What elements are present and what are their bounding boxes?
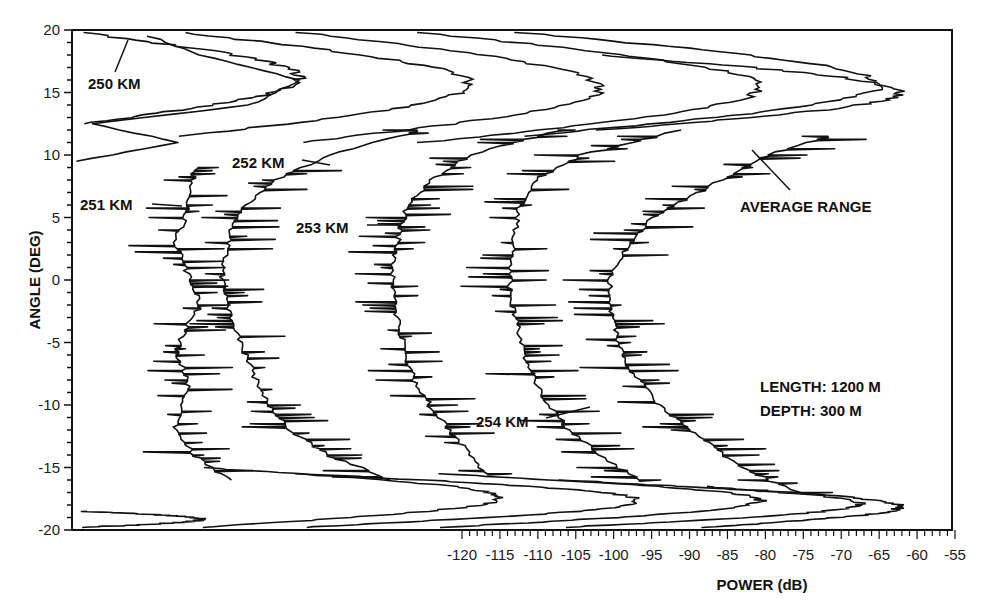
x-tick-label: -65 [868, 546, 890, 563]
x-tick-label: -100 [599, 546, 629, 563]
lobe-top-252 [296, 33, 604, 143]
lobe-bottom-250 [81, 511, 206, 527]
x-tick-label: -115 [485, 546, 514, 563]
curve-250-km [76, 36, 299, 161]
x-tick-label: -80 [755, 546, 777, 563]
y-tick-label: -5 [47, 334, 60, 351]
x-tick-label: -55 [944, 546, 966, 563]
x-axis: -120-115-110-105-100-95-90-85-80-75-70-6… [447, 530, 966, 563]
y-axis: 20151050-5-10-15-20 [38, 21, 72, 538]
range-angle-power-chart: 20151050-5-10-15-20 -120-115-110-105-100… [0, 0, 987, 610]
y-tick-label: 10 [43, 146, 60, 163]
x-tick-label: -60 [906, 546, 928, 563]
label-250-km: 250 KM [88, 75, 141, 92]
annotations: 250 KM 251 KM 252 KM 253 KM 254 KM AVERA… [80, 40, 881, 430]
y-tick-label: 0 [52, 271, 60, 288]
y-tick-label: 5 [52, 209, 60, 226]
x-tick-label: -90 [679, 546, 701, 563]
x-tick-label: -110 [523, 546, 552, 563]
label-254-km: 254 KM [476, 413, 529, 430]
label-depth: DEPTH: 300 M [760, 402, 862, 419]
y-tick-label: 20 [43, 21, 60, 38]
range-curves [76, 33, 904, 528]
leader-251 [152, 204, 182, 206]
leader-252 [302, 160, 330, 165]
label-252-km: 252 KM [232, 154, 285, 171]
y-tick-label: -20 [38, 521, 60, 538]
y-tick-label: -10 [38, 396, 60, 413]
curve-average-range [563, 136, 866, 493]
x-tick-label: -120 [447, 546, 477, 563]
y-axis-title: ANGLE (DEG) [26, 230, 43, 329]
x-tick-label: -85 [717, 546, 739, 563]
label-length: LENGTH: 1200 M [760, 378, 881, 395]
label-average-range: AVERAGE RANGE [740, 198, 871, 215]
y-tick-label: 15 [43, 84, 60, 101]
leader-250 [115, 40, 128, 72]
x-tick-label: -95 [641, 546, 663, 563]
curve-253-km [349, 130, 575, 475]
x-tick-label: -75 [792, 546, 814, 563]
y-tick-label: -15 [38, 459, 60, 476]
x-tick-label: -70 [830, 546, 852, 563]
label-251-km: 251 KM [80, 196, 133, 213]
label-253-km: 253 KM [296, 219, 349, 236]
x-tick-label: -105 [561, 546, 591, 563]
x-axis-title: POWER (dB) [717, 576, 808, 593]
